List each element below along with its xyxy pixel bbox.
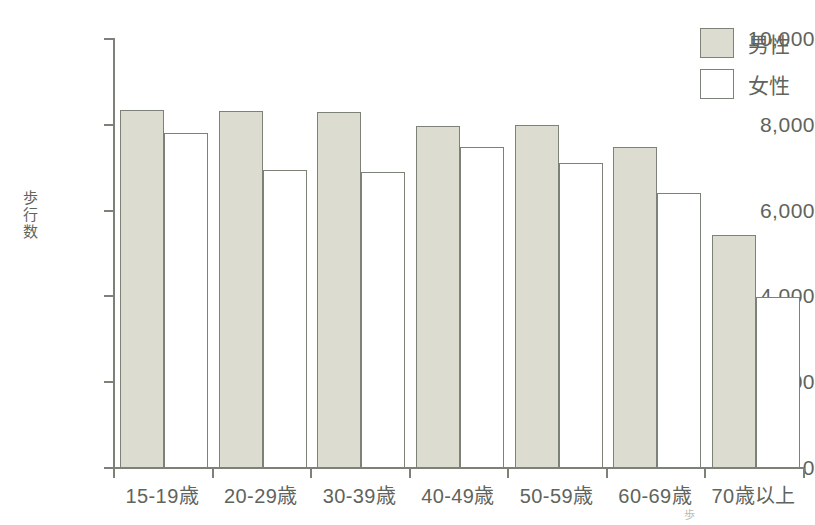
x-axis-category-label: 15-19歳: [126, 480, 200, 509]
x-axis-category-label: 40-49歳: [421, 480, 495, 509]
bar-group: [317, 39, 405, 468]
legend-label-male: 男性: [748, 28, 790, 58]
legend-item-male: 男性: [700, 28, 790, 58]
legend-label-female: 女性: [748, 69, 790, 99]
x-axis-tick: [113, 468, 115, 478]
x-axis-category-label: 50-59歳: [520, 480, 594, 509]
y-axis-title-char-2: 行: [22, 206, 39, 223]
x-axis-tick: [310, 468, 312, 478]
legend-swatch-female-icon: [700, 69, 734, 99]
bar-female: [164, 133, 208, 468]
bar-male: [317, 112, 361, 468]
bar-group: [416, 39, 504, 468]
bar-group: [613, 39, 701, 468]
x-axis-tick: [212, 468, 214, 478]
bar-male: [219, 111, 263, 468]
x-axis-category-label: 20-29歳: [224, 480, 298, 509]
bar-female: [460, 147, 504, 468]
x-axis-category-label: 30-39歳: [323, 480, 397, 509]
bar-group: [120, 39, 208, 468]
bar-chart: 歩 行 数 10,0008,0006,0004,0002,0000 15-19歳…: [0, 0, 815, 525]
scan-artifact: 歩: [684, 506, 695, 522]
bar-male: [416, 126, 460, 468]
x-axis-tick: [507, 468, 509, 478]
legend: 男性 女性: [700, 28, 790, 110]
bar-female: [657, 193, 701, 468]
legend-item-female: 女性: [700, 69, 790, 99]
x-axis-tick: [704, 468, 706, 478]
bar-female: [361, 172, 405, 468]
bar-female: [559, 163, 603, 468]
bar-male: [515, 125, 559, 468]
y-axis-title-char-1: 歩: [22, 189, 39, 206]
bar-male: [613, 147, 657, 468]
x-axis-tick: [409, 468, 411, 478]
x-axis-tick: [803, 468, 805, 478]
x-axis-category-label: 70歳以上: [712, 480, 796, 509]
bar-female: [756, 297, 800, 468]
bar-group: [515, 39, 603, 468]
x-axis-tick: [606, 468, 608, 478]
y-axis-title: 歩 行 数: [22, 189, 39, 240]
bar-male: [120, 110, 164, 468]
x-axis-category-label: 60-69歳: [618, 480, 692, 509]
y-axis-title-char-3: 数: [22, 223, 39, 240]
bar-male: [712, 235, 756, 468]
bar-female: [263, 170, 307, 468]
bar-group: [219, 39, 307, 468]
legend-swatch-male-icon: [700, 28, 734, 58]
